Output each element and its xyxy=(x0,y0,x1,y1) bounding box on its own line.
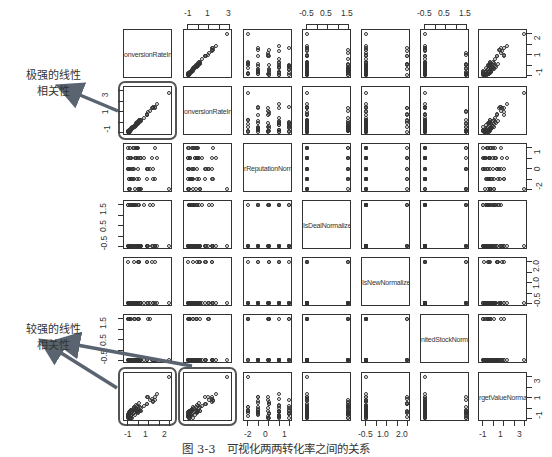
data-point xyxy=(481,167,485,171)
data-point xyxy=(346,358,350,362)
data-point xyxy=(203,358,207,362)
data-point xyxy=(153,177,157,181)
tick-mark xyxy=(514,421,515,426)
tick-mark xyxy=(118,111,123,112)
tick-mark xyxy=(524,421,525,426)
data-point xyxy=(405,167,409,171)
data-point xyxy=(277,260,281,264)
data-point xyxy=(198,260,202,264)
data-point xyxy=(287,408,291,412)
data-point xyxy=(256,395,260,399)
data-point xyxy=(186,73,190,77)
data-point xyxy=(196,244,200,248)
data-point xyxy=(190,177,194,181)
scatter-panel xyxy=(420,200,469,249)
data-point xyxy=(277,73,281,77)
data-point xyxy=(505,156,509,160)
data-point xyxy=(405,67,409,71)
data-point xyxy=(167,301,171,305)
data-point xyxy=(464,129,468,133)
tick-mark xyxy=(118,132,123,133)
diagonal-label-panel: IsNewNormalized xyxy=(361,257,410,306)
data-point xyxy=(405,54,409,58)
data-point xyxy=(405,402,409,406)
tick-mark xyxy=(118,90,123,91)
data-point xyxy=(277,120,281,124)
tick-label: 0.5 xyxy=(438,8,450,18)
tick-mark xyxy=(527,376,532,377)
tick-label: -1 xyxy=(534,411,544,419)
data-point xyxy=(305,113,309,117)
tick-label: -0.5 xyxy=(358,429,373,439)
data-point xyxy=(277,203,281,207)
data-point xyxy=(287,105,291,109)
scatter-panel xyxy=(420,86,469,135)
tick-label: -0.5 xyxy=(417,8,432,18)
data-point xyxy=(246,375,250,379)
data-point xyxy=(246,260,250,264)
scatter-panel xyxy=(302,257,351,306)
data-point xyxy=(246,317,250,321)
data-point xyxy=(225,187,229,191)
scatter-panel xyxy=(361,29,410,78)
data-point xyxy=(167,244,171,248)
data-point xyxy=(305,73,309,77)
data-point xyxy=(138,244,142,248)
data-point xyxy=(186,358,190,362)
data-point xyxy=(305,32,309,36)
highlight-box xyxy=(118,81,177,140)
tick-label: -0.5 xyxy=(299,8,314,18)
tick-label: 0 xyxy=(263,429,268,439)
data-point xyxy=(364,416,368,420)
data-point xyxy=(492,317,496,321)
data-point xyxy=(266,398,270,402)
tick-mark xyxy=(527,75,532,76)
data-point xyxy=(423,106,427,110)
data-point xyxy=(196,301,200,305)
data-point xyxy=(207,317,211,321)
tick-mark xyxy=(118,204,123,205)
tick-label: -1 xyxy=(184,8,192,18)
data-point xyxy=(346,317,350,321)
data-point xyxy=(135,146,139,150)
data-point xyxy=(423,415,427,419)
tick-mark xyxy=(118,329,123,330)
tick-label: 1 xyxy=(532,150,542,155)
tick-mark xyxy=(289,421,290,426)
tick-mark xyxy=(187,24,230,25)
scatter-panel xyxy=(420,257,469,306)
data-point xyxy=(346,407,350,411)
data-point xyxy=(246,122,250,126)
data-point xyxy=(364,167,368,171)
tick-mark xyxy=(138,421,139,426)
data-point xyxy=(488,156,492,160)
data-point xyxy=(423,156,427,160)
data-point xyxy=(364,375,368,379)
tick-label: 3 xyxy=(532,379,542,384)
data-point xyxy=(502,358,506,362)
tick-mark xyxy=(527,303,532,304)
tick-mark xyxy=(118,339,123,340)
tick-mark xyxy=(482,421,483,426)
data-point xyxy=(405,62,409,66)
variable-label: onversionRateInU' xyxy=(124,50,171,57)
annotation-line2: 相关性 xyxy=(26,84,81,100)
tick-label: 0 xyxy=(532,167,542,172)
scatter-panel xyxy=(302,314,351,363)
highlight-box xyxy=(118,367,177,426)
data-point xyxy=(225,32,229,36)
annotation-line2: 相关性 xyxy=(26,338,81,354)
tick-mark xyxy=(118,360,123,361)
data-point xyxy=(225,244,229,248)
scatter-panel xyxy=(361,143,410,192)
tick-label: 1 xyxy=(143,429,148,439)
data-point xyxy=(464,187,468,191)
data-point xyxy=(364,156,368,160)
tick-label: -1 xyxy=(124,429,132,439)
data-point xyxy=(145,167,149,171)
data-point xyxy=(287,122,291,126)
data-point xyxy=(305,146,309,150)
data-point xyxy=(522,32,526,36)
tick-mark xyxy=(386,421,387,426)
data-point xyxy=(346,187,350,191)
